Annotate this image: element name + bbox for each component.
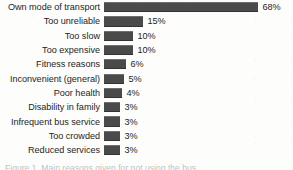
bar-category-label: Too slow xyxy=(0,31,100,41)
bar-value-label: 10% xyxy=(138,45,156,55)
bar-category-label: Too crowded xyxy=(0,131,100,141)
bar-row: Poor health4% xyxy=(0,86,293,100)
bar-row: Too unreliable15% xyxy=(0,14,293,28)
bar-track: 4% xyxy=(100,86,293,100)
bar-value-label: 6% xyxy=(131,59,144,69)
bar-row: Fitness reasons6% xyxy=(0,57,293,71)
bar-track: 15% xyxy=(100,14,293,28)
bar-row: Infrequent bus service3% xyxy=(0,114,293,128)
bar-value-label: 5% xyxy=(129,74,142,84)
bar xyxy=(104,16,143,26)
bar-value-label: 4% xyxy=(127,88,140,98)
bar-row: Too slow10% xyxy=(0,29,293,43)
bar xyxy=(104,2,258,12)
bar xyxy=(104,31,133,41)
bar-category-label: Reduced services xyxy=(0,145,100,155)
bar-track: 10% xyxy=(100,43,293,57)
bar xyxy=(104,145,120,155)
bar-category-label: Poor health xyxy=(0,88,100,98)
bar-track: 3% xyxy=(100,114,293,128)
bar-category-label: Too unreliable xyxy=(0,16,100,26)
bar xyxy=(104,74,124,84)
bar-row: Reduced services3% xyxy=(0,143,293,157)
chart-caption-clipped: Figure 1. Main reasons given for not usi… xyxy=(5,164,288,170)
bar-row: Too expensive10% xyxy=(0,43,293,57)
bar-track: 5% xyxy=(100,71,293,85)
bar-value-label: 3% xyxy=(125,117,138,127)
bar-category-label: Inconvenient (general) xyxy=(0,74,100,84)
bar-row: Own mode of transport68% xyxy=(0,0,293,14)
bar xyxy=(104,131,120,141)
bar-value-label: 3% xyxy=(125,145,138,155)
bar xyxy=(104,45,133,55)
bar-row: Too crowded3% xyxy=(0,129,293,143)
bar xyxy=(104,102,120,112)
bar-track: 68% xyxy=(100,0,293,14)
bar-row: Disability in family3% xyxy=(0,100,293,114)
bar-track: 10% xyxy=(100,29,293,43)
bar-value-label: 68% xyxy=(263,2,281,12)
bar-track: 3% xyxy=(100,100,293,114)
bar-category-label: Disability in family xyxy=(0,102,100,112)
bar-value-label: 10% xyxy=(138,31,156,41)
bar xyxy=(104,59,126,69)
bar-chart-rows: Own mode of transport68%Too unreliable15… xyxy=(0,0,293,157)
bar-category-label: Fitness reasons xyxy=(0,59,100,69)
bar-value-label: 3% xyxy=(125,102,138,112)
bar-row: Inconvenient (general)5% xyxy=(0,71,293,85)
bar-category-label: Own mode of transport xyxy=(0,2,100,12)
bar xyxy=(104,88,122,98)
bar-category-label: Too expensive xyxy=(0,45,100,55)
chart-caption-text: Figure 1. Main reasons given for not usi… xyxy=(5,164,288,170)
bar-category-label: Infrequent bus service xyxy=(0,117,100,127)
bar-track: 3% xyxy=(100,143,293,157)
bar-track: 3% xyxy=(100,129,293,143)
bar-chart: Own mode of transport68%Too unreliable15… xyxy=(0,0,293,170)
bar-value-label: 15% xyxy=(148,16,166,26)
bar xyxy=(104,116,120,126)
bar-value-label: 3% xyxy=(125,131,138,141)
bar-track: 6% xyxy=(100,57,293,71)
